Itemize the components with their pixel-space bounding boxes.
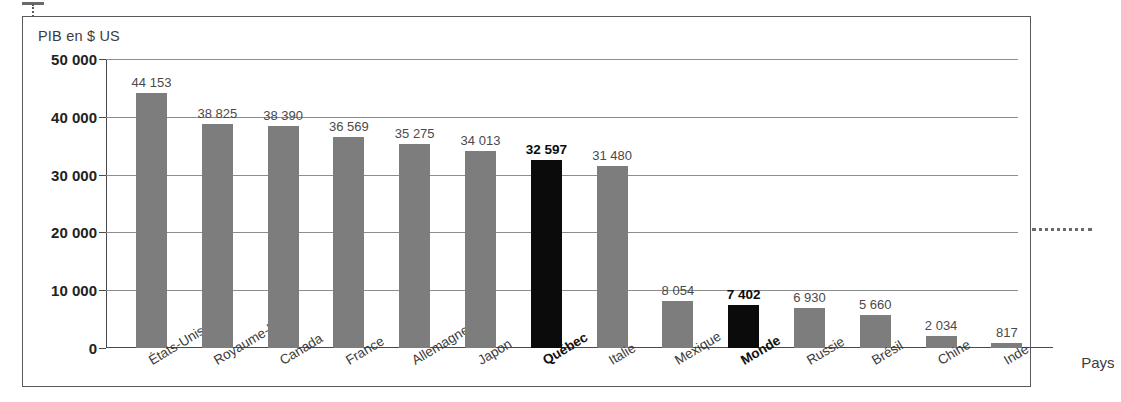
bar[interactable]: 32 597 xyxy=(531,160,562,348)
bar[interactable]: 36 569 xyxy=(333,137,364,348)
x-axis-title: Pays xyxy=(1081,354,1114,371)
bar-value-label: 2 034 xyxy=(925,318,958,333)
bar[interactable]: 38 390 xyxy=(268,126,299,348)
y-tick-label: 50 000 xyxy=(51,51,97,68)
bar-value-label: 38 390 xyxy=(263,108,303,123)
y-axis-title: PIB en $ US xyxy=(38,28,120,44)
plot-area: 010 00020 00030 00040 00050 00044 153Éta… xyxy=(106,59,1018,348)
bar-value-label: 31 480 xyxy=(592,148,632,163)
y-axis-line xyxy=(106,59,107,348)
y-tick-mark xyxy=(99,232,106,233)
bar[interactable]: 34 013 xyxy=(465,151,496,348)
y-tick-label: 40 000 xyxy=(51,108,97,125)
bar-value-label: 7 402 xyxy=(727,287,761,302)
gridline xyxy=(106,175,1018,176)
gridline xyxy=(106,59,1018,60)
bar-value-label: 36 569 xyxy=(329,119,369,134)
y-tick-mark xyxy=(99,290,106,291)
y-tick-label: 10 000 xyxy=(51,282,97,299)
y-tick-mark xyxy=(99,348,106,349)
bar-chart: PIB en $ US 010 00020 00030 00040 00050 … xyxy=(22,16,1031,387)
bar[interactable]: 31 480 xyxy=(597,166,628,348)
chart-page: PIB en $ US 010 00020 00030 00040 00050 … xyxy=(0,0,1121,402)
y-tick-label: 30 000 xyxy=(51,166,97,183)
bar-value-label: 38 825 xyxy=(197,106,237,121)
gridline xyxy=(106,290,1018,291)
right-dotted-connector xyxy=(1032,228,1092,231)
bar[interactable]: 35 275 xyxy=(399,144,430,348)
y-tick-mark xyxy=(99,59,106,60)
bar-value-label: 32 597 xyxy=(526,142,567,157)
bar[interactable]: 7 402 xyxy=(728,305,759,348)
gridline xyxy=(106,232,1018,233)
bar[interactable]: 6 930 xyxy=(794,308,825,348)
bar-value-label: 6 930 xyxy=(793,290,826,305)
bar-value-label: 34 013 xyxy=(461,133,501,148)
bar-value-label: 35 275 xyxy=(395,126,435,141)
y-tick-mark xyxy=(99,117,106,118)
bar-value-label: 44 153 xyxy=(132,75,172,90)
bar[interactable]: 5 660 xyxy=(860,315,891,348)
bar[interactable]: 38 825 xyxy=(202,124,233,348)
y-tick-label: 20 000 xyxy=(51,224,97,241)
bar[interactable]: 44 153 xyxy=(136,93,167,348)
bar-value-label: 5 660 xyxy=(859,297,892,312)
bar-value-label: 817 xyxy=(996,325,1018,340)
bar[interactable]: 8 054 xyxy=(662,301,693,348)
y-tick-mark xyxy=(99,175,106,176)
y-tick-label: 0 xyxy=(89,340,97,357)
bar-value-label: 8 054 xyxy=(662,283,695,298)
gridline xyxy=(106,117,1018,118)
